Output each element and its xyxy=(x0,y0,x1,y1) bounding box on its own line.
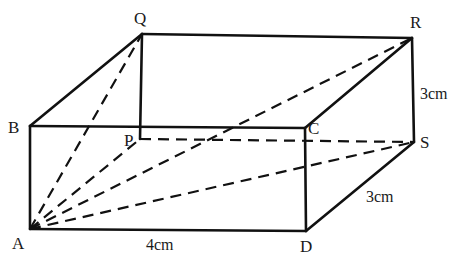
measure-rs: 3cm xyxy=(420,85,448,102)
measure-ad: 4cm xyxy=(146,236,174,253)
label-b: B xyxy=(8,118,19,137)
label-s: S xyxy=(420,133,429,152)
label-a: A xyxy=(12,234,25,253)
edge-qr xyxy=(142,34,412,38)
solid-edges xyxy=(30,34,414,231)
label-q: Q xyxy=(134,9,146,28)
diagonal-as xyxy=(30,142,414,229)
label-p: P xyxy=(124,131,133,150)
label-c: C xyxy=(308,119,319,138)
edge-ad xyxy=(30,229,306,231)
edge-bq xyxy=(30,34,142,126)
cuboid-diagram: Q R B P C S A D 4cm 3cm 3cm xyxy=(0,0,462,261)
edge-bc xyxy=(30,126,305,128)
edge-ps xyxy=(140,139,414,142)
dashed-lines xyxy=(30,34,414,229)
edge-qp xyxy=(140,34,142,139)
measure-ds: 3cm xyxy=(366,188,394,205)
edge-cd xyxy=(305,128,306,231)
edge-ds xyxy=(306,142,414,231)
label-d: D xyxy=(300,237,312,256)
diagonal-ar xyxy=(30,38,412,229)
edge-rs xyxy=(412,38,414,142)
label-r: R xyxy=(410,13,422,32)
